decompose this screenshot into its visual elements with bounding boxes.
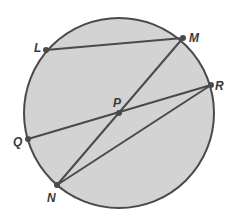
label-P: P: [113, 96, 122, 110]
point-Q: [25, 136, 31, 142]
label-R: R: [215, 79, 224, 93]
point-M: [180, 35, 186, 41]
point-P: [116, 110, 122, 116]
point-R: [208, 82, 214, 88]
point-N: [54, 182, 60, 188]
label-M: M: [189, 31, 200, 45]
label-L: L: [34, 41, 41, 55]
circle-chord-diagram: L M R P Q N: [0, 0, 238, 223]
point-L: [43, 47, 49, 53]
label-N: N: [47, 191, 56, 205]
label-Q: Q: [13, 135, 23, 149]
